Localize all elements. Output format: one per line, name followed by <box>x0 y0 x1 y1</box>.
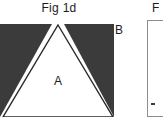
neighbor-panel-tick <box>151 103 155 105</box>
figure-container: Fig 1d F A B <box>0 0 163 117</box>
region-label-a: A <box>54 75 62 87</box>
figure-title: Fig 1d <box>0 1 118 15</box>
triangle-wedge-diagram <box>0 24 114 117</box>
region-label-b: B <box>115 24 123 36</box>
neighbor-panel-inner <box>150 23 163 114</box>
neighbor-figure-title: F <box>152 1 159 15</box>
main-diagram-panel <box>0 24 114 117</box>
neighbor-panel-frame <box>147 20 163 117</box>
